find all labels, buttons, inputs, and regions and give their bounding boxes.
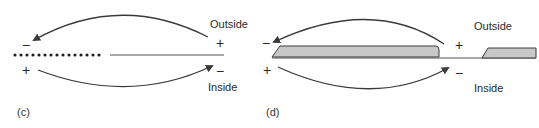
current-arrow-outside [274, 19, 444, 44]
panel-c: − + + − Outside Inside (c) [0, 0, 262, 128]
panel-label: (d) [266, 106, 279, 118]
sign-right-bottom: − [455, 66, 463, 80]
current-arrow-outside [34, 15, 208, 40]
sign-left-top: − [262, 36, 270, 50]
panel-label: (c) [17, 106, 30, 118]
outside-label: Outside [210, 18, 248, 30]
panel-d: − + + − Outside Inside (d) [262, 0, 539, 128]
sign-right-top: + [455, 38, 463, 52]
outside-label: Outside [474, 20, 512, 32]
myelin-segment-left [272, 46, 439, 57]
myelin-segment-right [482, 48, 536, 58]
current-arrow-inside [278, 67, 448, 89]
current-arrow-inside [38, 66, 212, 87]
dotted-membrane-segment [13, 53, 100, 56]
sign-left-top: − [22, 38, 30, 52]
sign-left-bottom: + [22, 63, 30, 77]
sign-right-bottom: − [216, 64, 224, 78]
sign-left-bottom: + [263, 63, 271, 77]
sign-right-top: + [216, 36, 224, 50]
inside-label: Inside [208, 81, 237, 93]
inside-label: Inside [474, 82, 503, 94]
